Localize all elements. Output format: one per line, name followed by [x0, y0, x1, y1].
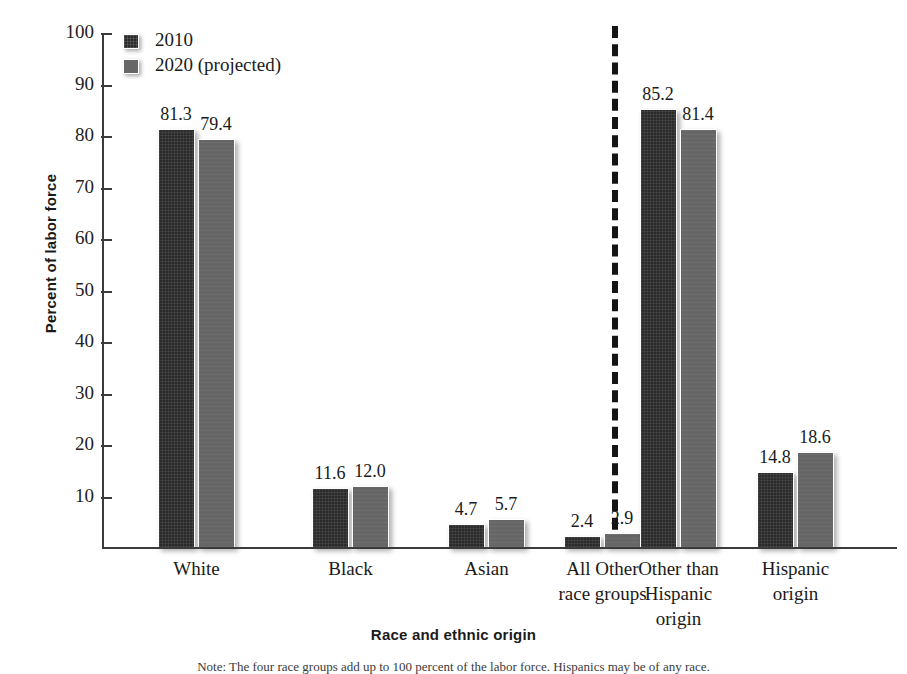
- bar[interactable]: [757, 472, 794, 548]
- legend-item-label: 2010: [155, 29, 193, 51]
- x-axis-category-label: White: [122, 556, 272, 581]
- bar[interactable]: [352, 486, 389, 548]
- x-axis-category-label-line: Black: [276, 556, 426, 581]
- bar[interactable]: [604, 533, 641, 548]
- bar[interactable]: [312, 488, 349, 548]
- bar[interactable]: [158, 129, 195, 548]
- bar[interactable]: [198, 139, 235, 548]
- y-axis-tick-label: 30: [42, 382, 94, 404]
- bar[interactable]: [448, 524, 485, 548]
- bar-value-label: 12.0: [338, 461, 402, 482]
- bar-value-label: 18.6: [783, 427, 847, 448]
- y-axis-tick-label: 20: [42, 433, 94, 455]
- y-axis-tick-label: 100: [42, 21, 94, 43]
- x-axis-category-label-line: origin: [721, 581, 871, 606]
- bar-value-label: 81.4: [666, 104, 730, 125]
- bar-group: 2.42.9: [564, 33, 641, 548]
- bar-value-label: 79.4: [184, 114, 248, 135]
- bar[interactable]: [680, 129, 717, 548]
- y-axis-tick-label: 70: [42, 176, 94, 198]
- bar-group: 85.281.4: [640, 33, 717, 548]
- x-axis-title: Race and ethnic origin: [0, 626, 907, 643]
- y-axis-tick-label: 50: [42, 279, 94, 301]
- x-axis-category-label: Black: [276, 556, 426, 581]
- bar[interactable]: [797, 452, 834, 548]
- bar-group: 14.818.6: [757, 33, 834, 548]
- bar[interactable]: [488, 519, 525, 548]
- x-axis-category-label-line: White: [122, 556, 272, 581]
- gray-swatch-icon: [123, 59, 139, 74]
- x-axis-category-label-line: Hispanic: [721, 556, 871, 581]
- y-axis-tick-label: 80: [42, 124, 94, 146]
- legend-item-label: 2020 (projected): [155, 54, 281, 76]
- y-axis-tick-label: 10: [42, 485, 94, 507]
- bar-group: 4.75.7: [448, 33, 525, 548]
- bar[interactable]: [640, 109, 677, 548]
- x-axis-category-label: Hispanicorigin: [721, 556, 871, 606]
- bar-value-label: 85.2: [626, 84, 690, 105]
- bar-chart-figure: Percent of labor force 10203040506070809…: [0, 0, 907, 674]
- bar-group: 81.379.4: [158, 33, 235, 548]
- bar-group: 11.612.0: [312, 33, 389, 548]
- chart-footnote: Note: The four race groups add up to 100…: [0, 659, 907, 674]
- y-axis-tick-label: 60: [42, 227, 94, 249]
- dark-swatch-icon: [123, 34, 139, 49]
- y-axis-tick-label: 40: [42, 330, 94, 352]
- bar-value-label: 5.7: [474, 494, 538, 515]
- plot-area: 81.379.411.612.04.75.72.42.985.281.414.8…: [102, 33, 897, 548]
- x-axis-line: [102, 547, 897, 549]
- y-axis-tick-label: 90: [42, 73, 94, 95]
